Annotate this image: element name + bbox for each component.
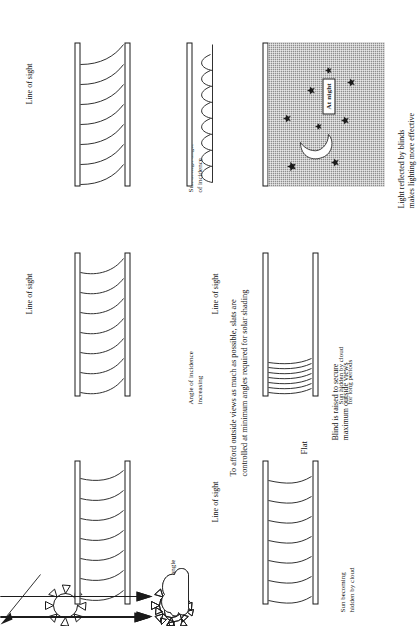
blind-slats-flat [268, 460, 312, 604]
panel-label-angle-increasing: Angle of incidence increasing [186, 308, 203, 404]
blind-slats-steep [80, 42, 124, 186]
line-of-sight-arrow-pair [0, 586, 152, 626]
blind-head-rail [262, 42, 268, 186]
blind-slats-reflective [192, 42, 214, 184]
flat-label: Flat [298, 441, 308, 454]
at-night-badge: At night [322, 78, 335, 114]
night-reflection-note: Light reflected by blinds makes lighting… [396, 18, 417, 208]
line-of-sight-label: Line of sight [210, 481, 219, 522]
line-of-sight-label: Line of sight [210, 273, 219, 314]
panel-label-sun-becoming-hidden: Sun becoming hidden by cloud [338, 516, 355, 612]
line-of-sight-label: Line of sight [24, 63, 33, 104]
blind-slats-tilted [80, 252, 124, 396]
panel-label-sun-hidden-long: Sun hidden by cloud for long periods [336, 308, 353, 404]
blind-sill-rail [312, 460, 318, 604]
blind-sill-rail [124, 42, 130, 186]
line-of-sight-label: Line of sight [24, 273, 33, 314]
blind-sill-rail [124, 252, 130, 396]
cloud-with-sun-icon [152, 564, 196, 626]
blind-head-rail [262, 460, 268, 604]
blind-head-rail [262, 252, 268, 396]
center-caption: To afford outside views as much as possi… [228, 176, 250, 476]
blind-head-rail [74, 252, 80, 396]
blind-slats-raised-stacked [268, 250, 312, 394]
night-sky-block: At night [268, 42, 384, 186]
blind-sill-rail [186, 42, 192, 186]
blind-head-rail [74, 42, 80, 186]
blind-sill-rail [312, 252, 318, 396]
panel-sun-hidden-long: Line of sight Blind is raised to secure … [0, 564, 196, 626]
